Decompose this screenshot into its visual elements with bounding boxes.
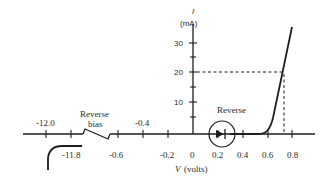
axis-break-zigzag xyxy=(83,129,110,139)
y-axis-symbol: I xyxy=(192,7,195,16)
y-axis-unit: (mA) xyxy=(180,19,198,28)
x-tick-label-neg12.0: -12.0 xyxy=(36,118,55,128)
x-tick-label-neg0.6: -0.6 xyxy=(109,150,124,160)
forward-region-label: Reverse xyxy=(217,105,246,115)
x-tick-label-0: 0 xyxy=(190,150,195,160)
y-tick-label-10: 10 xyxy=(174,98,183,107)
x-tick-label-0.4: 0.4 xyxy=(237,150,249,160)
reverse-bias-label-line2: bias xyxy=(88,119,103,129)
x-tick-label-0.8: 0.8 xyxy=(287,150,299,160)
x-axis-title: V (volts) xyxy=(175,164,208,174)
reverse-bias-label-line1: Reverse xyxy=(80,109,109,119)
y-tick-label-30: 30 xyxy=(174,39,183,48)
x-tick-label-0.2: 0.2 xyxy=(212,150,223,160)
x-axis-unit: (volts) xyxy=(184,164,208,174)
x-tick-label-neg0.4: -0.4 xyxy=(135,118,150,128)
x-axis-symbol: V xyxy=(175,164,182,174)
forward-iv-curve xyxy=(230,27,292,134)
y-tick-label-20: 20 xyxy=(174,68,183,77)
x-axis xyxy=(23,129,315,139)
x-tick-label-neg0.2: -0.2 xyxy=(160,150,174,160)
x-tick-label-neg11.8: -11.8 xyxy=(62,150,81,160)
x-tick-label-0.6: 0.6 xyxy=(262,150,274,160)
diode-iv-diagram: I (mA) 30 20 10 0 0.2 0.4 0.6 0.8 -0.2 -… xyxy=(0,0,330,184)
